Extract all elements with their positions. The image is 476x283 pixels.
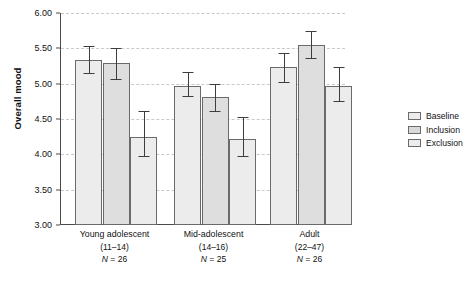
- bar-inclusion-1: [103, 63, 130, 225]
- legend-item-inclusion[interactable]: Inclusion: [408, 124, 476, 137]
- bar-inclusion-2: [202, 97, 229, 225]
- y-tick-label: 5.00: [34, 79, 52, 88]
- error-bar-cap-lower: [111, 79, 122, 80]
- error-bar-line: [144, 111, 145, 156]
- plot-area: [60, 13, 345, 225]
- error-bar-cap-upper: [278, 53, 289, 54]
- error-bar-cap-upper: [210, 84, 221, 85]
- error-bar-cap-upper: [111, 48, 122, 49]
- legend-label: Baseline: [426, 111, 459, 121]
- bar-baseline-3: [270, 67, 297, 225]
- error-bar-cap-upper: [306, 31, 317, 32]
- error-bar-cap-lower: [182, 96, 193, 97]
- error-bar-cap-lower: [138, 156, 149, 157]
- y-axis-tick-labels: 6.005.505.004.504.003.503.00: [16, 0, 56, 283]
- legend-item-baseline[interactable]: Baseline: [408, 110, 476, 123]
- chart-legend: BaselineInclusionExclusion: [408, 110, 476, 151]
- error-bar-line: [188, 72, 189, 96]
- error-bar-line: [215, 84, 216, 111]
- legend-item-exclusion[interactable]: Exclusion: [408, 137, 476, 150]
- group-sample-size: N = 26: [247, 253, 372, 266]
- error-bar-line: [116, 48, 117, 78]
- group-age-range: (22–47): [247, 241, 372, 254]
- y-tick-label: 3.50: [34, 185, 52, 194]
- error-bar-line: [89, 46, 90, 74]
- gridline: [61, 13, 345, 14]
- error-bar-cap-upper: [333, 67, 344, 68]
- y-tick-label: 6.00: [34, 9, 52, 18]
- legend-label: Inclusion: [426, 125, 460, 135]
- error-bar-line: [243, 117, 244, 157]
- error-bar-cap-upper: [237, 117, 248, 118]
- error-bar-line: [284, 53, 285, 82]
- error-bar-cap-upper: [138, 111, 149, 112]
- chart-figure: Overall mood 6.005.505.004.504.003.503.0…: [0, 0, 476, 283]
- y-tick-label: 4.50: [34, 115, 52, 124]
- error-bar-line: [311, 31, 312, 59]
- bar-inclusion-3: [298, 45, 325, 225]
- legend-swatch-icon: [408, 126, 421, 134]
- legend-swatch-icon: [408, 112, 421, 120]
- y-tick-label: 4.00: [34, 150, 52, 159]
- error-bar-cap-lower: [333, 101, 344, 102]
- error-bar-cap-upper: [182, 72, 193, 73]
- error-bar-cap-lower: [278, 82, 289, 83]
- bar-exclusion-3: [325, 86, 352, 225]
- error-bar-line: [339, 67, 340, 102]
- y-tick-label: 5.50: [34, 44, 52, 53]
- error-bar-cap-lower: [306, 58, 317, 59]
- bar-baseline-2: [174, 86, 201, 225]
- y-tick-label: 3.00: [34, 221, 52, 230]
- legend-label: Exclusion: [426, 138, 463, 148]
- error-bar-cap-upper: [83, 46, 94, 47]
- error-bar-cap-lower: [83, 73, 94, 74]
- legend-swatch-icon: [408, 139, 421, 147]
- error-bar-cap-lower: [237, 156, 248, 157]
- bar-baseline-1: [75, 60, 102, 225]
- x-axis-group-labels: Young adolescent(11–14)N = 26Mid-adolesc…: [60, 228, 345, 280]
- x-group-label-3: Adult(22–47)N = 26: [247, 228, 372, 266]
- error-bar-cap-lower: [210, 111, 221, 112]
- group-name: Adult: [247, 228, 372, 241]
